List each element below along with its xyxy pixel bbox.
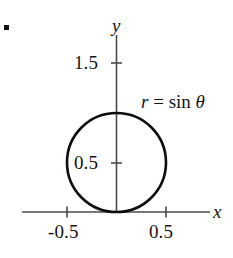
equation-relation: =: [148, 91, 168, 112]
y-tick-label-0-5: 0.5: [74, 153, 98, 172]
x-axis-label: x: [213, 202, 221, 221]
y-axis-label: y: [112, 16, 120, 35]
polar-circle-figure: y x 1.5 0.5 -0.5 0.5 r = sin θ: [0, 0, 233, 258]
x-tick-label-pos-0-5: 0.5: [149, 222, 173, 241]
y-tick-label-1-5: 1.5: [74, 53, 98, 72]
equation-annotation: r = sin θ: [141, 92, 205, 111]
equation-variable: θ: [196, 91, 205, 112]
equation-function: sin: [169, 91, 191, 112]
plot-canvas: [0, 0, 233, 258]
x-tick-label-neg-0-5: -0.5: [48, 222, 78, 241]
